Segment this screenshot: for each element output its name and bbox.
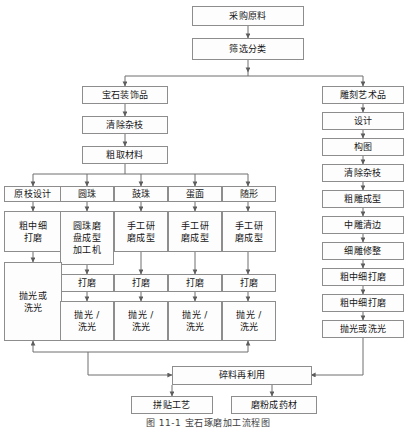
node-screening[interactable]: 筛选分类 bbox=[192, 38, 304, 60]
node-right-grinding[interactable]: 粗中细打磨 bbox=[322, 268, 404, 286]
node-col2-grind[interactable]: 打磨 bbox=[60, 274, 114, 292]
node-design[interactable]: 设计 bbox=[322, 112, 404, 130]
node-col1-head[interactable]: 原枝设计 bbox=[4, 186, 62, 202]
node-col5-hand-grinding[interactable]: 手工研 磨成型 bbox=[222, 211, 276, 252]
node-gem-decoration[interactable]: 宝石装饰品 bbox=[82, 86, 168, 104]
node-col4-hand-grinding[interactable]: 手工研 磨成型 bbox=[168, 211, 222, 252]
node-col4-head[interactable]: 蛋面 bbox=[168, 186, 222, 202]
node-col3-grind[interactable]: 打磨 bbox=[114, 274, 168, 292]
figure-caption: 图 11-1 宝石琢磨加工流程图 bbox=[0, 416, 416, 428]
node-powder-medicine[interactable]: 磨粉成药材 bbox=[231, 396, 317, 414]
flowchart-canvas: 采购原料 筛选分类 宝石装饰品 雕刻艺术品 清除杂枝 粗取材料 原枝设计 圆珠 … bbox=[0, 0, 416, 428]
node-mosaic-craft[interactable]: 拼贴工艺 bbox=[131, 396, 213, 414]
node-right-rough-fine-grind[interactable]: 粗中细打磨 bbox=[322, 294, 404, 312]
node-col5-head[interactable]: 随形 bbox=[222, 186, 276, 202]
node-rough-carving[interactable]: 粗雕成型 bbox=[322, 190, 404, 208]
node-col2-polish[interactable]: 抛光 / 洗光 bbox=[60, 301, 114, 341]
node-composition[interactable]: 构图 bbox=[322, 138, 404, 156]
node-col4-grind[interactable]: 打磨 bbox=[168, 274, 222, 292]
node-mid-carving[interactable]: 中雕清边 bbox=[322, 216, 404, 234]
node-col4-polish[interactable]: 抛光 / 洗光 bbox=[168, 301, 222, 341]
node-col2-bead-machine[interactable]: 圆珠磨 盘成型 加工机 bbox=[60, 211, 114, 265]
node-purchase[interactable]: 采购原料 bbox=[192, 6, 304, 26]
node-col3-polish[interactable]: 抛光 / 洗光 bbox=[114, 301, 168, 341]
node-col2-head[interactable]: 圆珠 bbox=[60, 186, 114, 202]
node-col3-head[interactable]: 鼓珠 bbox=[114, 186, 168, 202]
node-carving-art[interactable]: 雕刻艺术品 bbox=[322, 86, 404, 104]
node-clean-branches-left[interactable]: 清除杂枝 bbox=[82, 116, 168, 134]
node-col1-grinding[interactable]: 粗中细 打磨 bbox=[4, 211, 62, 252]
node-col1-polish[interactable]: 抛光或 洗光 bbox=[4, 262, 62, 341]
node-rough-material[interactable]: 粗取材料 bbox=[82, 146, 168, 164]
node-scrap-reuse[interactable]: 碎料再利用 bbox=[172, 366, 312, 385]
node-col5-grind[interactable]: 打磨 bbox=[222, 274, 276, 292]
node-col3-hand-grinding[interactable]: 手工研 磨成型 bbox=[114, 211, 168, 252]
node-clean-branches-right[interactable]: 清除杂枝 bbox=[322, 164, 404, 182]
node-fine-carving[interactable]: 细雕修整 bbox=[322, 242, 404, 260]
node-right-polish[interactable]: 抛光或洗光 bbox=[322, 320, 404, 338]
node-col5-polish[interactable]: 抛光 / 洗光 bbox=[222, 301, 276, 341]
